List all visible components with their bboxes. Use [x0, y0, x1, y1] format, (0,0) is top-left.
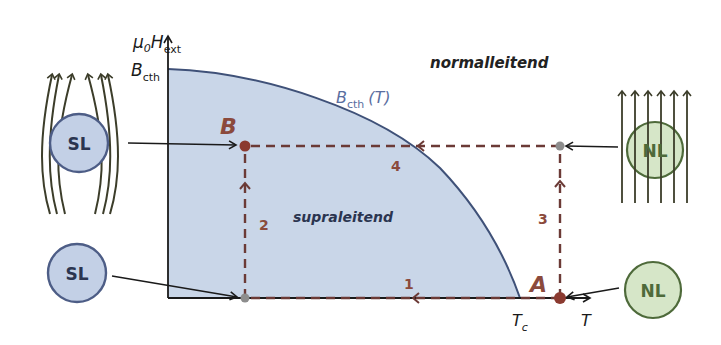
step-label-3: 3: [538, 211, 548, 227]
nl-top-pointer: [566, 146, 618, 147]
region-label-normal: normalleitend: [430, 54, 549, 72]
x-tick-tc: Tc: [512, 311, 528, 334]
region-label-super: supraleitend: [293, 209, 394, 225]
step-label-4: 4: [391, 158, 401, 174]
y-tick-bcth: Bcth: [131, 60, 160, 84]
step-label-1: 1: [404, 276, 414, 292]
sl-top-label: SL: [67, 134, 90, 154]
point-a-marker: [554, 292, 566, 304]
point-b-label: B: [220, 114, 237, 139]
x-axis-label: T: [581, 311, 592, 330]
y-axis-label: μ0Hext: [132, 32, 182, 56]
step-label-2: 2: [259, 217, 269, 233]
nl-bottom-label: NL: [640, 281, 665, 301]
point-bottom-left-marker: [241, 294, 250, 303]
phase-diagram: μ0Hext Bcth Tc T Bcth(T) normalleitend s…: [0, 0, 721, 345]
point-top-right-marker: [556, 142, 565, 151]
nl-bottom-pointer: [567, 288, 619, 297]
nl-top-label: NL: [642, 141, 667, 161]
sl-bottom-label: SL: [65, 264, 88, 284]
point-a-label: A: [528, 272, 547, 297]
point-b-marker: [240, 141, 251, 152]
